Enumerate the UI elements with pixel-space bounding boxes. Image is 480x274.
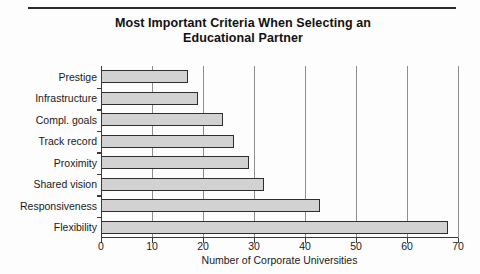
chart-title-line-2: Educational Partner	[40, 31, 446, 46]
y-axis-label-responsiveness: Responsiveness	[1, 200, 97, 212]
chart-figure: Most Important Criteria When Selecting a…	[0, 0, 480, 274]
header-rule	[28, 7, 456, 9]
y-axis-label-flexibility: Flexibility	[1, 221, 97, 233]
y-axis-label-shared-vision: Shared vision	[1, 178, 97, 190]
x-axis-tick-label: 70	[443, 240, 473, 252]
y-axis-labels: PrestigeInfrastructureCompl. goalsTrack …	[0, 66, 97, 238]
x-axis-tick-label: 60	[392, 240, 422, 252]
y-axis-label-prestige: Prestige	[1, 71, 97, 83]
x-axis-tick-label: 30	[239, 240, 269, 252]
x-axis-title: Number of Corporate Universities	[101, 254, 458, 266]
x-axis-tick-label: 10	[137, 240, 167, 252]
y-axis-label-infrastructure: Infrastructure	[1, 92, 97, 104]
chart-title: Most Important Criteria When Selecting a…	[40, 16, 446, 46]
x-axis-tick-label: 40	[290, 240, 320, 252]
plot-frame	[101, 66, 458, 238]
chart-title-line-1: Most Important Criteria When Selecting a…	[40, 16, 446, 31]
x-axis-tick-label: 0	[86, 240, 116, 252]
x-axis-tick-label: 50	[341, 240, 371, 252]
plot-area	[101, 66, 458, 238]
x-axis-tick-label: 20	[188, 240, 218, 252]
y-axis-label-proximity: Proximity	[1, 157, 97, 169]
y-axis-label-compl-goals: Compl. goals	[1, 114, 97, 126]
gridline	[458, 66, 459, 238]
y-axis-label-track-record: Track record	[1, 135, 97, 147]
